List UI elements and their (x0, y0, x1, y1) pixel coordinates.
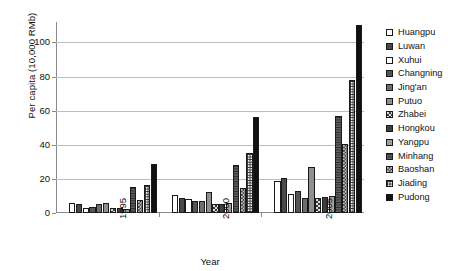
legend-label: Hongkou (398, 124, 435, 133)
legend-swatch-icon (386, 166, 393, 173)
legend-item-jiading[interactable]: Jiading (386, 177, 463, 191)
bar-putuo-2000 (206, 192, 212, 213)
legend-label: Minhang (398, 152, 433, 161)
legend-label: Zhabei (398, 110, 426, 119)
legend-swatch-icon (386, 180, 393, 187)
bar-baoshan-2000 (240, 188, 246, 213)
bar-xuhui-1995 (83, 208, 89, 213)
bar-changning-2005 (295, 191, 301, 213)
bar-jingan-2005 (302, 198, 308, 213)
legend-item-putuo[interactable]: Putuo (386, 94, 463, 108)
y-tick-mark (52, 213, 56, 214)
x-axis-group-separator (159, 213, 160, 217)
legend-label: Jiading (398, 179, 427, 188)
legend-item-yangpu[interactable]: Yangpu (386, 136, 463, 150)
bar-pudong-2000 (253, 117, 259, 213)
bar-pudong-2005 (356, 25, 362, 213)
y-tick-mark (52, 111, 56, 112)
legend-item-pudong[interactable]: Pudong (386, 190, 463, 204)
bar-jingan-2000 (199, 201, 205, 213)
chart-legend: HuangpuLuwanXuhuiChangningJing'anPutuoZh… (386, 26, 463, 204)
legend-swatch-icon (386, 111, 393, 118)
legend-label: Yangpu (398, 138, 429, 147)
legend-item-xuhui[interactable]: Xuhui (386, 53, 463, 67)
legend-item-changning[interactable]: Changning (386, 67, 463, 81)
legend-item-hongkou[interactable]: Hongkou (386, 122, 463, 136)
legend-label: Huangpu (398, 28, 435, 37)
bar-minhang-2000 (233, 165, 239, 213)
bar-xuhui-2005 (288, 194, 294, 213)
bar-huangpu-2005 (274, 181, 280, 213)
bar-huangpu-2000 (172, 195, 178, 213)
y-tick-mark (52, 77, 56, 78)
legend-label: Xuhui (398, 56, 422, 65)
legend-swatch-icon (386, 153, 393, 160)
legend-swatch-icon (386, 70, 393, 77)
legend-label: Luwan (398, 42, 425, 51)
y-tick-mark (52, 42, 56, 43)
plot-area: 020406080100 (56, 22, 364, 213)
legend-swatch-icon (386, 194, 393, 201)
y-tick-label: 100 (24, 37, 50, 46)
y-tick-mark (52, 145, 56, 146)
bar-minhang-1995 (130, 187, 136, 213)
legend-label: Jing'an (398, 83, 427, 92)
y-tick-label: 60 (24, 106, 50, 115)
bar-group-bars (69, 22, 157, 213)
legend-item-jingan[interactable]: Jing'an (386, 81, 463, 95)
y-tick-label: 40 (24, 140, 50, 149)
bar-minhang-2005 (335, 116, 341, 213)
legend-swatch-icon (386, 29, 393, 36)
bar-jingan-1995 (96, 204, 102, 213)
bar-changning-2000 (192, 201, 198, 213)
legend-swatch-icon (386, 125, 393, 132)
bar-baoshan-1995 (137, 200, 143, 213)
x-tick-label-2000: 2000 (220, 198, 231, 219)
bar-chart-figure: Per capita (10,000 RMb) 020406080100 Hua… (0, 0, 463, 271)
legend-item-huangpu[interactable]: Huangpu (386, 26, 463, 40)
bar-huangpu-1995 (69, 203, 75, 213)
y-tick-label: 20 (24, 174, 50, 183)
y-tick-mark (52, 179, 56, 180)
bar-luwan-2005 (281, 178, 287, 213)
x-tick-label-2005: 2005 (323, 198, 334, 219)
bar-zhabei-1995 (110, 208, 116, 213)
legend-item-luwan[interactable]: Luwan (386, 40, 463, 54)
x-axis-title: Year (56, 256, 364, 267)
bar-pudong-1995 (151, 164, 157, 213)
legend-item-minhang[interactable]: Minhang (386, 149, 463, 163)
bar-xuhui-2000 (185, 199, 191, 213)
legend-item-zhabei[interactable]: Zhabei (386, 108, 463, 122)
y-axis-title: Per capita (10,000 RMb) (26, 0, 37, 141)
bar-jiading-2005 (349, 80, 355, 213)
legend-swatch-icon (386, 139, 393, 146)
bar-jiading-2000 (246, 153, 252, 213)
bar-changning-1995 (89, 207, 95, 213)
x-axis-group-separator (261, 213, 262, 217)
legend-swatch-icon (386, 57, 393, 64)
legend-label: Baoshan (398, 165, 434, 174)
bar-jiading-1995 (144, 185, 150, 213)
legend-item-baoshan[interactable]: Baoshan (386, 163, 463, 177)
bar-putuo-2005 (308, 167, 314, 213)
bar-zhabei-2005 (315, 198, 321, 213)
y-tick-label: 0 (24, 208, 50, 217)
bar-putuo-1995 (103, 203, 109, 213)
bar-luwan-1995 (76, 204, 82, 213)
bar-luwan-2000 (179, 198, 185, 213)
bar-group-bars (172, 22, 260, 213)
bar-baoshan-2005 (342, 144, 348, 213)
legend-swatch-icon (386, 43, 393, 50)
y-axis-line (56, 22, 57, 213)
bar-group-bars (274, 22, 362, 213)
legend-label: Pudong (398, 193, 430, 202)
legend-label: Putuo (398, 97, 422, 106)
legend-swatch-icon (386, 98, 393, 105)
y-tick-label: 80 (24, 72, 50, 81)
bar-zhabei-2000 (212, 204, 218, 213)
legend-label: Changning (398, 69, 442, 78)
x-tick-label-1995: 1995 (117, 198, 128, 219)
legend-swatch-icon (386, 84, 393, 91)
